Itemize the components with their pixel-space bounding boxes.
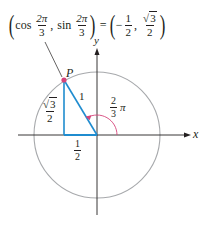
sin-label: sin [57, 18, 71, 33]
y-axis-arrow-icon [95, 48, 100, 55]
comma: , [50, 18, 53, 33]
x-axis-label: x [193, 128, 198, 140]
horizontal-leg-label: 1 2 [74, 139, 81, 162]
open-paren: ( [9, 11, 15, 39]
hypotenuse-label: 1 [79, 91, 85, 102]
minus-sign: − [116, 18, 123, 33]
point-p-label: P [66, 67, 73, 79]
equals-sign: = [100, 18, 107, 33]
cos-label: cos [15, 18, 31, 33]
sin-argument: 2π 3 [75, 13, 88, 38]
y-coordinate: √3 2 [142, 13, 158, 38]
pointer-line [45, 42, 62, 77]
hypotenuse [64, 80, 97, 135]
y-axis-label: y [94, 35, 99, 46]
x-axis-arrow-icon [184, 133, 191, 138]
unit-circle-figure: ( cos 2π 3 , sin 2π 3 ) = ( − 1 2 , √3 2… [0, 0, 212, 226]
comma-rhs: , [134, 18, 137, 33]
open-paren-rhs: ( [110, 11, 116, 39]
cos-argument: 2π 3 [35, 13, 48, 38]
angle-label-fraction: 2 3 [110, 96, 117, 119]
coordinate-equation: ( cos 2π 3 , sin 2π 3 ) = ( − 1 2 , √3 2… [9, 11, 165, 39]
vertical-leg-label: √3 2 [42, 99, 58, 124]
close-paren-rhs: ) [160, 11, 166, 39]
x-coordinate: 1 2 [125, 13, 133, 38]
angle-label-pi: π [120, 102, 126, 113]
